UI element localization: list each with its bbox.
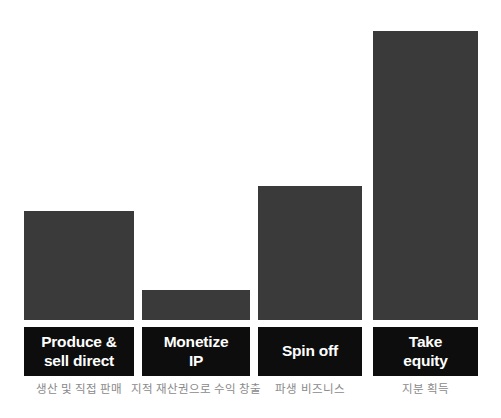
bar-group-1: Monetize IP 지적 재산권으로 수익 창출: [142, 0, 250, 418]
bar-chart: Produce & sell direct 생산 및 직접 판매 Monetiz…: [0, 0, 501, 418]
bar-caption-take-equity: 지분 획득: [359, 382, 492, 397]
bar-label-box-take-equity: Take equity: [373, 327, 478, 376]
bar-label-text: Spin off: [279, 342, 341, 360]
bar-label-text: Produce & sell direct: [38, 333, 120, 370]
bar-spin-off: [258, 186, 362, 320]
bar-take-equity: [373, 31, 478, 320]
bar-label-box-spin-off: Spin off: [258, 327, 362, 376]
bar-group-0: Produce & sell direct 생산 및 직접 판매: [24, 0, 134, 418]
bar-label-box-produce-sell-direct: Produce & sell direct: [24, 327, 134, 376]
bar-produce-sell-direct: [24, 211, 134, 320]
bar-group-2: Spin off 파생 비즈니스: [258, 0, 362, 418]
chart-plot-area: Produce & sell direct 생산 및 직접 판매 Monetiz…: [0, 0, 501, 418]
bar-caption-spin-off: 파생 비즈니스: [244, 382, 376, 397]
bar-label-box-monetize-ip: Monetize IP: [142, 327, 250, 376]
bar-monetize-ip: [142, 290, 250, 320]
bar-label-text: Take equity: [400, 333, 450, 370]
bar-label-text: Monetize IP: [161, 333, 232, 370]
bar-group-3: Take equity 지분 획득: [373, 0, 478, 418]
